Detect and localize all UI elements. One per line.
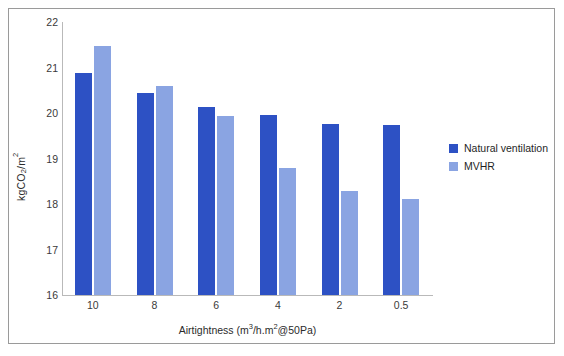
- x-axis-tick-label: 4: [248, 300, 308, 311]
- legend-label: Natural ventilation: [464, 143, 548, 154]
- y-axis-tick-label: 22: [32, 17, 58, 28]
- y-axis-tick-label: 19: [32, 154, 58, 165]
- bar-group: [260, 22, 296, 295]
- chart-figure: kgCO2/m2 16171819202122 1086420.5 Airtig…: [0, 0, 564, 356]
- bar-natural-ventilation[interactable]: [198, 107, 215, 295]
- legend-swatch-icon: [449, 162, 458, 171]
- legend-label: MVHR: [464, 161, 495, 172]
- y-axis-tick-label: 16: [32, 290, 58, 301]
- bar-mvhr[interactable]: [156, 86, 173, 295]
- plot-area: [62, 22, 432, 295]
- bar-natural-ventilation[interactable]: [260, 115, 277, 295]
- legend-swatch-icon: [449, 144, 458, 153]
- x-axis-tick-label: 6: [186, 300, 246, 311]
- x-axis-tick-label: 10: [63, 300, 123, 311]
- bar-mvhr[interactable]: [341, 191, 358, 295]
- bar-group: [383, 22, 419, 295]
- y-axis-tick-label: 17: [32, 245, 58, 256]
- bar-mvhr[interactable]: [94, 46, 111, 295]
- y-axis-tick-label: 21: [32, 63, 58, 74]
- bar-mvhr[interactable]: [217, 116, 234, 295]
- bar-group: [322, 22, 358, 295]
- legend-item[interactable]: MVHR: [449, 160, 554, 172]
- x-axis-line: [62, 295, 433, 296]
- x-axis-title: Airtightness (m3/h.m2@50Pa): [62, 322, 433, 336]
- y-axis-tick-label: 20: [32, 108, 58, 119]
- bar-natural-ventilation[interactable]: [383, 125, 400, 295]
- x-axis-tick-label: 0.5: [371, 300, 431, 311]
- chart-legend: Natural ventilationMVHR: [449, 142, 554, 178]
- y-axis-tick-labels: 16171819202122: [28, 0, 58, 356]
- bar-group: [198, 22, 234, 295]
- x-axis-tick-label: 2: [310, 300, 370, 311]
- bar-natural-ventilation[interactable]: [322, 124, 339, 295]
- y-axis-tick-label: 18: [32, 199, 58, 210]
- bar-natural-ventilation[interactable]: [75, 73, 92, 295]
- x-axis-tick-label: 8: [125, 300, 185, 311]
- bar-group: [137, 22, 173, 295]
- bar-natural-ventilation[interactable]: [137, 93, 154, 295]
- bar-mvhr[interactable]: [279, 168, 296, 295]
- bar-group: [75, 22, 111, 295]
- legend-item[interactable]: Natural ventilation: [449, 142, 554, 154]
- bar-mvhr[interactable]: [402, 199, 419, 295]
